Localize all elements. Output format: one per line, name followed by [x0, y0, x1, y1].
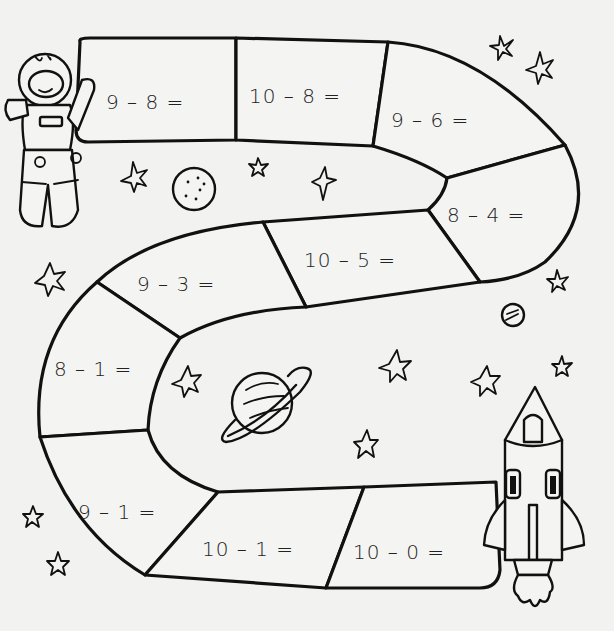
- equation-9: 10 – 1 =: [202, 537, 294, 561]
- star-icon: [172, 366, 201, 397]
- star-icon: [354, 430, 378, 458]
- star-icon: [526, 52, 553, 84]
- star-icon: [547, 270, 568, 292]
- equation-8: 9 – 1 =: [78, 500, 156, 524]
- equation-10: 10 – 0 =: [353, 540, 445, 564]
- equation-2: 10 – 8 =: [249, 84, 341, 108]
- star-icon: [121, 162, 147, 192]
- star-icon: [23, 506, 43, 527]
- star-icon: [47, 552, 69, 575]
- equation-1: 9 – 8 =: [106, 90, 184, 114]
- star-icon: [312, 167, 336, 200]
- equation-6: 9 – 3 =: [137, 272, 215, 296]
- star-icon: [552, 356, 572, 376]
- star-icon: [249, 158, 268, 176]
- star-icon: [379, 350, 411, 382]
- equation-4: 8 – 4 =: [447, 203, 525, 227]
- ringed-planet-illustration: [222, 368, 311, 442]
- moon-illustration: [173, 168, 215, 210]
- small-planet-illustration: [502, 304, 524, 326]
- equation-7: 8 – 1 =: [54, 357, 132, 381]
- star-icon: [35, 263, 65, 296]
- star-icon: [471, 366, 500, 396]
- star-icon: [490, 36, 513, 60]
- equation-3: 9 – 6 =: [391, 108, 469, 132]
- equation-5: 10 – 5 =: [304, 248, 396, 272]
